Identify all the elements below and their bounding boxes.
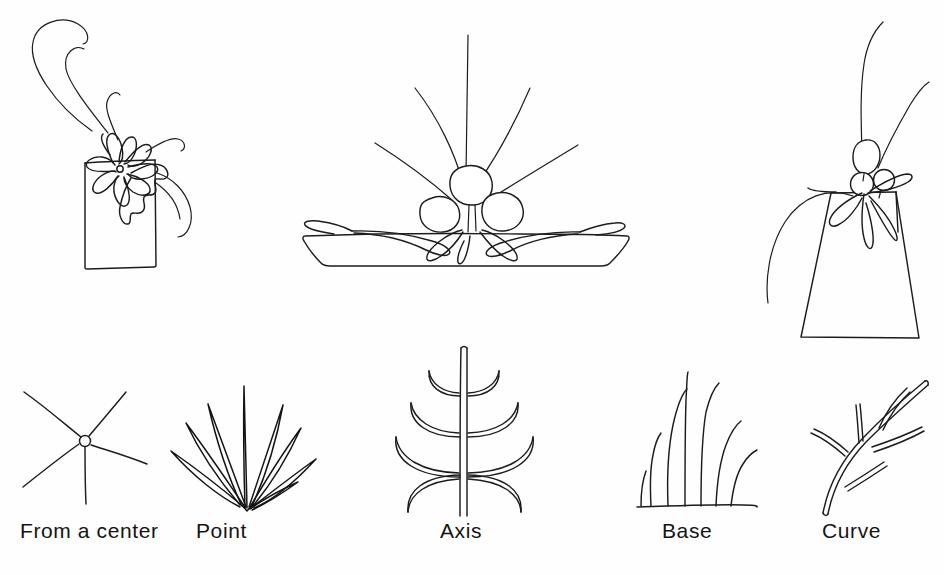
figure-rectangular-vase-arrangement [32,20,191,269]
arcing-stems-group [32,20,184,152]
drooping-stems-group [156,173,191,237]
caption-axis: Axis [440,517,482,545]
pointed-leaves-group [305,221,625,264]
figure-trapezoid-vase-arrangement [767,22,929,338]
caption-point: Point [196,517,247,545]
sweeping-left-curve [767,193,853,303]
diagram-curve [811,381,928,516]
shallow-dish-shape [303,234,629,266]
caption-from-a-center: From a center [20,517,159,545]
illustration-plate: From a center Point Axis Base Curve [0,0,944,575]
blossom-heads-group [420,166,523,232]
diagram-from-a-center [23,392,147,504]
trapezoid-vase-shape [801,192,919,338]
diagram-point [171,386,316,511]
figure-shallow-dish-arrangement [303,35,629,266]
diagram-axis [396,347,533,517]
caption-curve: Curve [822,517,881,545]
caption-row: From a center Point Axis Base Curve [0,517,944,561]
caption-base: Base [662,517,712,545]
diagram-base [637,372,757,507]
wavy-leaf [120,164,168,224]
line-art-canvas [0,0,944,575]
